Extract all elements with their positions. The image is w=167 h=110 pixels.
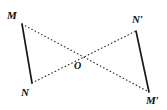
vertex-label-m-prime: M′ <box>146 95 159 106</box>
vertex-label-m: M <box>7 10 17 21</box>
segment-NprimeMprime <box>136 31 149 92</box>
vertex-label-n: N <box>21 87 29 98</box>
geometry-figure: M N N′ M′ O <box>0 0 167 110</box>
center-label-o: O <box>74 60 81 71</box>
segment-M-to-Mprime-dotted <box>22 24 149 92</box>
vertex-label-n-prime: N′ <box>132 14 143 25</box>
segment-MN <box>22 24 32 83</box>
